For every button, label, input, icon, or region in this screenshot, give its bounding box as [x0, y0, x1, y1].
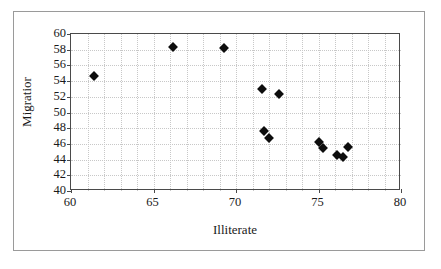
- data-points-layer: [71, 34, 399, 189]
- x-tick-label: 80: [380, 196, 420, 209]
- y-axis-tick-labels: 4042444648505254565860: [32, 33, 66, 190]
- x-tick-mark: [401, 189, 402, 193]
- scatter-chart-figure: 4042444648505254565860 6065707580 Illite…: [0, 0, 441, 269]
- plot-area: [70, 33, 400, 190]
- x-axis-title: Illiterate: [70, 222, 400, 238]
- data-point-marker: [264, 133, 274, 143]
- data-point-marker: [257, 84, 267, 94]
- y-tick-label: 42: [36, 168, 66, 181]
- x-tick-label: 60: [50, 196, 90, 209]
- data-point-marker: [168, 42, 178, 52]
- data-point-marker: [89, 71, 99, 81]
- y-axis-title: Migratior: [19, 47, 35, 157]
- x-tick-label: 65: [133, 196, 173, 209]
- y-tick-label: 58: [36, 42, 66, 55]
- x-tick-label: 75: [298, 196, 338, 209]
- y-tick-label: 46: [36, 137, 66, 150]
- data-point-marker: [343, 142, 353, 152]
- x-axis-tick-labels: 6065707580: [70, 196, 400, 212]
- data-point-marker: [219, 43, 229, 53]
- y-tick-label: 44: [36, 152, 66, 165]
- y-tick-label: 50: [36, 105, 66, 118]
- data-point-marker: [318, 143, 328, 153]
- x-tick-label: 70: [215, 196, 255, 209]
- y-tick-label: 60: [36, 27, 66, 40]
- data-point-marker: [274, 89, 284, 99]
- y-tick-label: 48: [36, 121, 66, 134]
- x-tick-mark: [236, 189, 237, 193]
- data-point-marker: [338, 152, 348, 162]
- y-tick-label: 54: [36, 74, 66, 87]
- y-tick-label: 56: [36, 58, 66, 71]
- y-tick-label: 52: [36, 90, 66, 103]
- y-tick-label: 40: [36, 184, 66, 197]
- x-tick-mark: [319, 189, 320, 193]
- x-tick-mark: [71, 189, 72, 193]
- x-tick-mark: [154, 189, 155, 193]
